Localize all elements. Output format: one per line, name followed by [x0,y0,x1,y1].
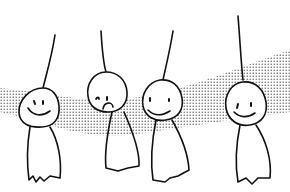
teru-teru-bozu-illustration [0,0,290,192]
doll-4 [226,16,271,184]
doll-1 [19,35,61,182]
doll-3 [143,31,189,182]
